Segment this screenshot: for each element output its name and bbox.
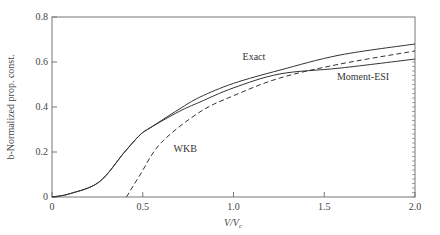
x-tick-label: 1.5 [318, 201, 331, 212]
x-axis-label: V/Vc [224, 217, 243, 230]
x-tick-label: 1.0 [227, 201, 240, 212]
series-label-moment-esi: Moment-ESI [337, 71, 389, 82]
y-axis-label: b-Normalized prop. const. [5, 55, 16, 160]
x-tick-label: 0 [50, 201, 55, 212]
series-label-exact: Exact [243, 51, 266, 62]
plot-frame [52, 17, 415, 197]
y-tick-label: 0 [43, 191, 48, 202]
y-tick-label: 0.6 [36, 56, 49, 67]
chart: 00.51.01.52.000.20.40.60.8 ExactMoment-E… [0, 0, 440, 235]
y-tick-label: 0.2 [36, 146, 49, 157]
plot-border [52, 17, 415, 197]
series-line-exact [52, 44, 415, 197]
axis-ticks: 00.51.01.52.000.20.40.60.8 [36, 11, 422, 212]
series-lines [52, 44, 415, 197]
x-axis-label-sub: c [239, 222, 243, 230]
series-label-wkb: WKB [174, 143, 198, 154]
x-tick-label: 0.5 [137, 201, 150, 212]
x-tick-label: 2.0 [409, 201, 422, 212]
y-tick-label: 0.4 [36, 101, 49, 112]
y-tick-label: 0.8 [36, 11, 49, 22]
